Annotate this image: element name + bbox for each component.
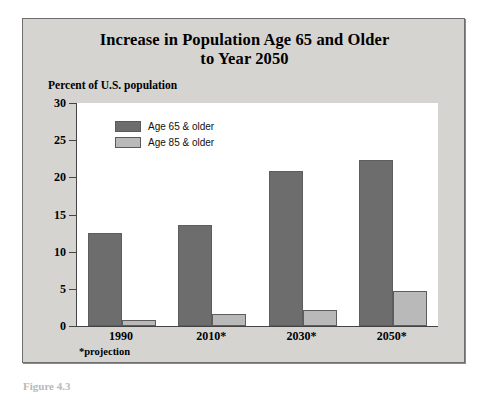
- bar-85plus-2030: [303, 310, 337, 326]
- plot-area: 051015202530 Age 65 & olderAge 85 & olde…: [76, 103, 438, 327]
- y-tick-15: [69, 215, 77, 216]
- legend-label-0: Age 65 & older: [148, 121, 214, 132]
- y-axis-title: Percent of U.S. population: [48, 79, 177, 91]
- y-tick-20: [69, 177, 77, 178]
- figure-panel: Increase in Population Age 65 and Older …: [22, 18, 465, 363]
- figure-caption: Figure 4.3: [23, 380, 70, 396]
- legend-swatch-icon-1: [115, 137, 141, 148]
- y-tick-0: [69, 326, 77, 327]
- y-tick-label-5: 5: [60, 281, 66, 296]
- legend-swatch-icon-0: [115, 121, 141, 132]
- bar-65plus-2030: [269, 171, 303, 326]
- y-tick-label-25: 25: [54, 133, 66, 148]
- y-tick-label-15: 15: [54, 207, 66, 222]
- legend-item-1: Age 85 & older: [115, 137, 214, 148]
- bar-group-2050: [359, 103, 427, 326]
- chart-title: Increase in Population Age 65 and Older …: [23, 30, 466, 68]
- y-tick-label-30: 30: [54, 96, 66, 111]
- y-tick-label-0: 0: [60, 319, 66, 334]
- bar-group-2030: [269, 103, 337, 326]
- y-tick-10: [69, 252, 77, 253]
- bar-65plus-2050: [359, 160, 393, 326]
- bar-65plus-2010: [178, 225, 212, 326]
- x-tick-label-2010: 2010*: [196, 329, 226, 344]
- x-tick-label-2030: 2030*: [287, 329, 317, 344]
- legend-item-0: Age 65 & older: [115, 121, 214, 132]
- y-tick-25: [69, 140, 77, 141]
- y-tick-label-20: 20: [54, 170, 66, 185]
- chart-title-line-1: Increase in Population Age 65 and Older: [23, 30, 466, 49]
- y-tick-30: [69, 103, 77, 104]
- bar-85plus-2050: [393, 291, 427, 326]
- x-tick-label-2050: 2050*: [377, 329, 407, 344]
- y-tick-label-10: 10: [54, 244, 66, 259]
- bar-85plus-1990: [122, 320, 156, 326]
- legend-label-1: Age 85 & older: [148, 137, 214, 148]
- x-tick-label-1990: 1990: [109, 329, 133, 344]
- y-tick-5: [69, 289, 77, 290]
- chart-title-line-2: to Year 2050: [23, 49, 466, 68]
- projection-footnote: *projection: [79, 346, 130, 357]
- chart-legend: Age 65 & olderAge 85 & older: [115, 121, 214, 153]
- bar-85plus-2010: [212, 314, 246, 326]
- bar-65plus-1990: [88, 233, 122, 326]
